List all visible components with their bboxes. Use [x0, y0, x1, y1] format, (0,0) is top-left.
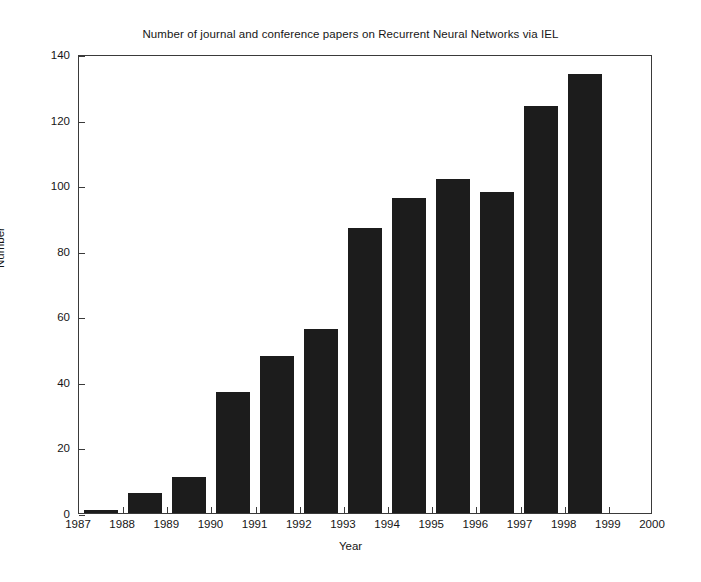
y-axis-tick-labels: 020406080100120140 — [0, 55, 70, 514]
x-tick-mark-1993 — [344, 507, 345, 513]
bar-slot — [343, 56, 387, 513]
bar-1998[interactable] — [568, 74, 602, 513]
y-tick-label-140: 140 — [4, 49, 70, 61]
y-axis-title: Number — [0, 227, 6, 268]
bar-1994[interactable] — [392, 198, 426, 513]
bar-1988[interactable] — [128, 493, 162, 513]
bar-slot — [167, 56, 211, 513]
bar-1992[interactable] — [304, 329, 338, 513]
x-tick-label-1999: 1999 — [595, 518, 621, 530]
bar-slot — [299, 56, 343, 513]
x-tick-mark-1994 — [388, 507, 389, 513]
bar-slot — [563, 56, 607, 513]
bar-slot — [607, 56, 651, 513]
bar-slot — [431, 56, 475, 513]
bar-1987[interactable] — [84, 510, 118, 513]
y-tick-label-100: 100 — [4, 180, 70, 192]
y-tick-mark-60 — [79, 318, 85, 319]
bar-1990[interactable] — [216, 392, 250, 513]
y-tick-mark-20 — [79, 449, 85, 450]
x-axis-tick-labels: 1987198819891990199119921993199419951996… — [0, 518, 701, 538]
y-tick-label-120: 120 — [4, 115, 70, 127]
bar-1997[interactable] — [524, 106, 558, 513]
y-tick-label-80: 80 — [4, 246, 70, 258]
x-tick-label-1997: 1997 — [507, 518, 533, 530]
x-tick-label-1995: 1995 — [418, 518, 444, 530]
y-tick-mark-0 — [79, 515, 85, 516]
x-tick-label-1991: 1991 — [242, 518, 268, 530]
x-tick-mark-1999 — [609, 507, 610, 513]
x-axis-title: Year — [0, 540, 701, 552]
x-tick-mark-1990 — [211, 507, 212, 513]
x-tick-mark-1991 — [256, 507, 257, 513]
plot-area — [78, 55, 652, 514]
x-tick-label-1993: 1993 — [330, 518, 356, 530]
x-tick-mark-1988 — [123, 507, 124, 513]
x-tick-mark-1995 — [432, 507, 433, 513]
y-tick-mark-120 — [79, 122, 85, 123]
bar-1996[interactable] — [480, 192, 514, 513]
x-tick-label-1990: 1990 — [198, 518, 224, 530]
x-tick-label-1992: 1992 — [286, 518, 312, 530]
x-tick-mark-1997 — [521, 507, 522, 513]
bar-slot — [475, 56, 519, 513]
bar-slot — [519, 56, 563, 513]
figure-canvas: Number of journal and conference papers … — [0, 0, 701, 582]
y-tick-label-60: 60 — [4, 311, 70, 323]
bar-slot — [79, 56, 123, 513]
x-tick-mark-1996 — [476, 507, 477, 513]
x-tick-label-1998: 1998 — [551, 518, 577, 530]
bar-slot — [255, 56, 299, 513]
y-tick-mark-100 — [79, 187, 85, 188]
x-tick-label-2000: 2000 — [639, 518, 665, 530]
bar-slot — [211, 56, 255, 513]
bar-slot — [123, 56, 167, 513]
x-tick-label-1988: 1988 — [109, 518, 135, 530]
x-tick-label-1994: 1994 — [374, 518, 400, 530]
chart-title: Number of journal and conference papers … — [0, 28, 701, 40]
bar-1989[interactable] — [172, 477, 206, 513]
y-tick-mark-140 — [79, 56, 85, 57]
bar-1991[interactable] — [260, 356, 294, 513]
x-tick-label-1987: 1987 — [65, 518, 91, 530]
x-tick-mark-1992 — [300, 507, 301, 513]
y-tick-mark-40 — [79, 384, 85, 385]
bar-1993[interactable] — [348, 228, 382, 513]
bar-1995[interactable] — [436, 179, 470, 513]
x-tick-label-1996: 1996 — [463, 518, 489, 530]
y-tick-label-40: 40 — [4, 377, 70, 389]
y-tick-label-20: 20 — [4, 442, 70, 454]
x-tick-label-1989: 1989 — [154, 518, 180, 530]
x-tick-mark-1998 — [565, 507, 566, 513]
y-tick-mark-80 — [79, 253, 85, 254]
bar-series — [79, 56, 651, 513]
bar-slot — [387, 56, 431, 513]
x-tick-mark-1989 — [167, 507, 168, 513]
